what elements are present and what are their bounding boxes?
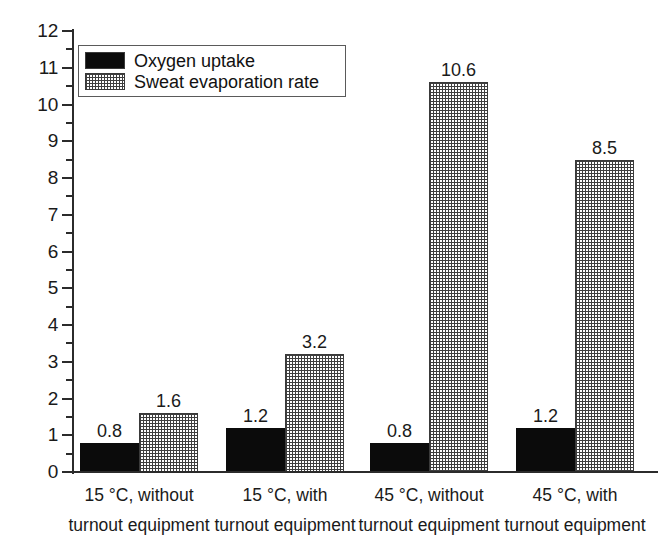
y-axis-tick-label: 7	[18, 205, 58, 224]
y-axis-tick-major	[62, 361, 72, 363]
y-axis-tick-label: 9	[18, 131, 58, 150]
bar-value-label: 3.2	[302, 333, 327, 351]
bar-value-label: 0.8	[387, 422, 412, 440]
bar: 0.8	[80, 443, 139, 472]
y-axis-tick-major	[62, 104, 72, 106]
y-axis-tick-label: 11	[18, 58, 58, 77]
x-axis-category-label: 45 °C, withturnout equipment	[490, 480, 660, 540]
y-axis-tick-major	[62, 324, 72, 326]
bar-value-label: 1.6	[156, 392, 181, 410]
x-axis-category-label: 15 °C, withoutturnout equipment	[54, 480, 224, 540]
x-axis-category-label-line2: turnout equipment	[490, 510, 660, 540]
x-axis-category-label-line2: turnout equipment	[54, 510, 224, 540]
bar-value-label: 1.2	[243, 407, 268, 425]
x-axis-category-label-line1: 45 °C, without	[344, 480, 514, 510]
y-axis-tick-major	[62, 287, 72, 289]
bar-value-label: 10.6	[441, 61, 476, 79]
y-axis-tick-major	[62, 434, 72, 436]
bar: 1.2	[516, 428, 575, 472]
y-axis-tick-label: 2	[18, 389, 58, 408]
y-axis-tick-major	[62, 67, 72, 69]
bar-value-label: 1.2	[533, 407, 558, 425]
y-axis-tick-label: 6	[18, 242, 58, 261]
y-axis: 0123456789101112	[0, 0, 58, 557]
x-axis-category-label-line1: 15 °C, without	[54, 480, 224, 510]
bar: 3.2	[285, 354, 344, 472]
x-axis-category-label: 45 °C, withoutturnout equipment	[344, 480, 514, 540]
y-axis-tick-label: 8	[18, 168, 58, 187]
y-axis-tick-label: 3	[18, 352, 58, 371]
plot-area: 0.81.61.23.20.810.61.28.5	[72, 31, 658, 472]
bar: 10.6	[429, 82, 488, 472]
y-axis-tick-label: 10	[18, 95, 58, 114]
bar-value-label: 8.5	[592, 139, 617, 157]
y-axis-tick-label: 12	[18, 21, 58, 40]
bar: 8.5	[575, 160, 634, 472]
y-axis-tick-major	[62, 214, 72, 216]
y-axis-tick-label: 4	[18, 315, 58, 334]
bar-chart: 0123456789101112 Oxygen uptake Sweat eva…	[0, 0, 672, 557]
bar: 1.2	[226, 428, 285, 472]
bar-value-label: 0.8	[97, 422, 122, 440]
x-axis: 15 °C, withoutturnout equipment15 °C, wi…	[72, 480, 672, 550]
y-axis-tick-label: 0	[18, 462, 58, 481]
y-axis-tick-label: 5	[18, 278, 58, 297]
y-axis-tick-label: 1	[18, 425, 58, 444]
y-axis-tick-major	[62, 251, 72, 253]
y-axis-tick-major	[62, 30, 72, 32]
x-axis-category-label-line2: turnout equipment	[344, 510, 514, 540]
y-axis-tick-major	[62, 177, 72, 179]
y-axis-tick-major	[62, 140, 72, 142]
bar: 0.8	[370, 443, 429, 472]
x-axis-line	[72, 471, 658, 473]
x-axis-category-label-line1: 45 °C, with	[490, 480, 660, 510]
bar: 1.6	[139, 413, 198, 472]
y-axis-tick-major	[62, 398, 72, 400]
y-axis-tick-major	[62, 471, 72, 473]
